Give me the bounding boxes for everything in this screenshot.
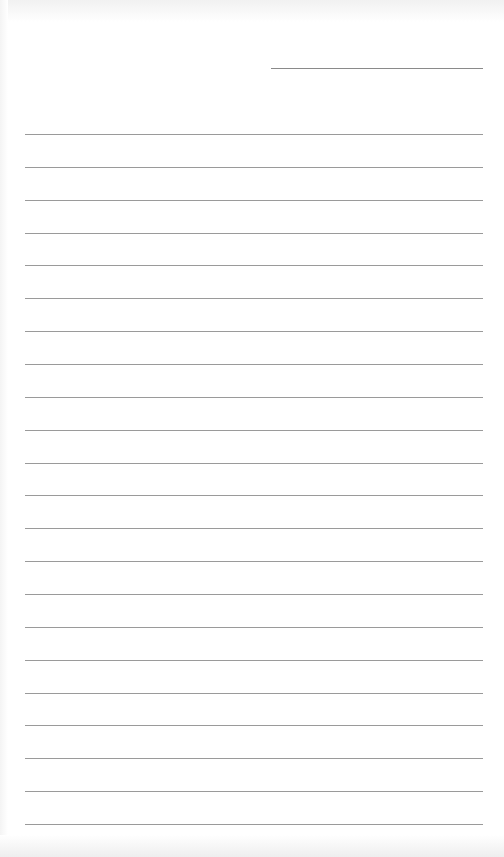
ruled-line bbox=[25, 824, 483, 825]
ruled-line bbox=[25, 528, 483, 529]
ruled-line bbox=[25, 430, 483, 431]
page-top-edge bbox=[0, 0, 504, 22]
page-left-edge bbox=[0, 0, 8, 857]
ruled-line bbox=[25, 463, 483, 464]
ruled-line bbox=[25, 561, 483, 562]
ruled-line bbox=[25, 331, 483, 332]
ruled-line bbox=[25, 233, 483, 234]
ruled-line bbox=[25, 265, 483, 266]
ruled-line bbox=[25, 791, 483, 792]
header-date-line bbox=[271, 68, 483, 69]
ruled-line bbox=[25, 495, 483, 496]
ruled-line bbox=[25, 693, 483, 694]
ruled-line bbox=[25, 660, 483, 661]
ruled-line bbox=[25, 758, 483, 759]
ruled-line bbox=[25, 167, 483, 168]
ruled-line bbox=[25, 298, 483, 299]
ruled-line bbox=[25, 200, 483, 201]
ruled-line bbox=[25, 364, 483, 365]
ruled-line bbox=[25, 594, 483, 595]
ruled-line bbox=[25, 397, 483, 398]
page-bottom-edge bbox=[0, 835, 504, 857]
ruled-line bbox=[25, 134, 483, 135]
ruled-line bbox=[25, 725, 483, 726]
ruled-line bbox=[25, 627, 483, 628]
